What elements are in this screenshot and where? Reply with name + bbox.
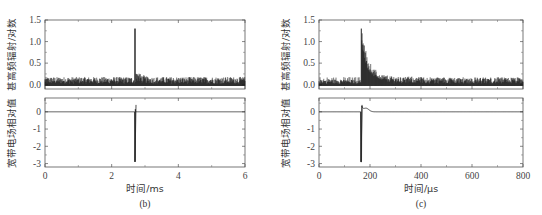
y-tick-label: -2 — [307, 142, 315, 152]
plot-frame — [319, 20, 523, 89]
x-tick-label: 0 — [317, 171, 322, 181]
y-tick-label: -2 — [33, 142, 41, 152]
x-tick-label: 200 — [363, 171, 378, 181]
y-tick-label: -1 — [307, 124, 315, 134]
x-tick-label: 800 — [516, 171, 531, 181]
efield-subplot: 0-1-2-3宽带电场相对值0246 — [6, 98, 248, 182]
y-tick-label: -1 — [33, 124, 41, 134]
y-tick-label: 0.5 — [29, 58, 41, 68]
y-tick-label: 0.0 — [303, 80, 315, 90]
y-tick-label: 1.5 — [303, 15, 315, 25]
efield-subplot: 0-1-2-3宽带电场相对值0200400600800 — [280, 98, 530, 182]
figure: 0.00.51.01.5甚高频辐射/对数0-1-2-3宽带电场相对值0246时间… — [0, 0, 542, 215]
vhf-trace — [45, 29, 245, 86]
efield-trace — [319, 105, 523, 162]
chart-b: 0.00.51.01.5甚高频辐射/对数0-1-2-3宽带电场相对值0246时间… — [6, 15, 248, 210]
plot-frame — [319, 98, 523, 167]
efield-trace — [45, 105, 245, 162]
y-axis-title: 甚高频辐射/对数 — [6, 18, 17, 91]
x-tick-label: 600 — [465, 171, 480, 181]
x-axis-title: 时间/ms — [126, 183, 163, 194]
y-tick-label: 0.5 — [303, 58, 315, 68]
y-axis-title: 宽带电场相对值 — [280, 98, 291, 168]
y-axis-title: 甚高频辐射/对数 — [280, 18, 291, 91]
vhf-subplot: 0.00.51.01.5甚高频辐射/对数 — [6, 15, 245, 91]
y-tick-label: 0 — [310, 107, 315, 117]
y-tick-label: 0.0 — [29, 80, 41, 90]
y-tick-label: 0 — [36, 107, 41, 117]
y-tick-label: 1.0 — [303, 37, 315, 47]
plot-frame — [45, 98, 245, 167]
x-tick-label: 6 — [243, 171, 248, 181]
x-tick-label: 0 — [43, 171, 48, 181]
x-tick-label: 400 — [414, 171, 429, 181]
panel-caption: (c) — [416, 199, 427, 210]
y-tick-label: 1.5 — [29, 15, 41, 25]
y-tick-label: -3 — [307, 159, 315, 169]
chart-c: 0.00.51.01.5甚高频辐射/对数0-1-2-3宽带电场相对值020040… — [280, 15, 530, 210]
panel-caption: (b) — [139, 199, 150, 210]
vhf-subplot: 0.00.51.01.5甚高频辐射/对数 — [280, 15, 523, 91]
y-axis-title: 宽带电场相对值 — [6, 98, 17, 168]
x-tick-label: 4 — [176, 171, 181, 181]
y-tick-label: -3 — [33, 159, 41, 169]
x-tick-label: 2 — [109, 171, 114, 181]
vhf-trace — [319, 29, 523, 86]
x-axis-title: 时间/μs — [404, 183, 438, 194]
y-tick-label: 1.0 — [29, 37, 41, 47]
